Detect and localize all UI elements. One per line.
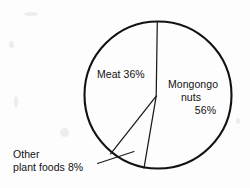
- slice-label-other-plant-foods: Other plant foods 8%: [13, 148, 83, 174]
- slice-label-mongongo-nuts: Mongongo nuts 56%: [168, 78, 218, 117]
- slice-label-mongongo-line-1: Mongongo: [168, 78, 218, 91]
- slice-divider-other-meat: [111, 96, 157, 154]
- pie-chart-figure: Meat 36% Mongongo nuts 56% Other plant f…: [0, 0, 250, 188]
- slice-label-mongongo-line-2: nuts: [168, 91, 218, 104]
- slice-label-mongongo-line-3: 56%: [168, 104, 218, 117]
- slice-label-other-line-1: Other: [13, 148, 83, 161]
- slice-divider-mongongo-other: [144, 96, 156, 168]
- slice-label-meat: Meat 36%: [97, 68, 145, 81]
- slice-divider-mongongo-meat: [156, 22, 157, 97]
- slice-label-other-line-2: plant foods 8%: [13, 161, 83, 174]
